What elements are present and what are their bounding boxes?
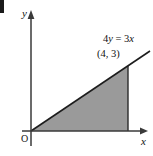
equation-var-x: x [129, 33, 134, 44]
point-coordinate-label: (4, 3) [97, 49, 120, 60]
equation-equals: = [113, 33, 124, 44]
x-axis-label: x [141, 136, 146, 147]
y-axis-label: y [22, 8, 27, 19]
line-equation-label: 4y = 3x [103, 34, 134, 45]
origin-label: O [21, 134, 28, 144]
y-axis-arrowhead [28, 10, 35, 19]
x-axis-arrowhead [140, 128, 148, 135]
graph-figure: y x O 4y = 3x (4, 3) [0, 0, 153, 156]
